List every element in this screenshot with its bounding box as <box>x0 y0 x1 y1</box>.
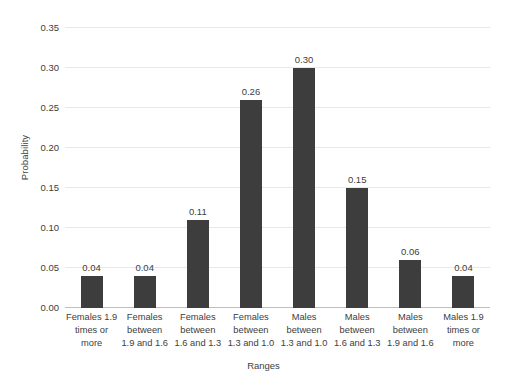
bar[interactable] <box>293 68 315 308</box>
y-axis-tick-label: 0.35 <box>41 22 60 33</box>
category-label-line: 1.3 and 1.0 <box>278 337 331 350</box>
bar-value-label: 0.26 <box>242 86 261 97</box>
category-label-line: 1.9 and 1.6 <box>118 337 171 350</box>
category-label-line: Females <box>224 311 277 324</box>
bar[interactable] <box>81 276 103 308</box>
category-label-line: 1.6 and 1.3 <box>331 337 384 350</box>
category-label-line: Males 1.9 <box>437 311 490 324</box>
category-label-line: 1.9 and 1.6 <box>384 337 437 350</box>
bar[interactable] <box>134 276 156 308</box>
bar-slot: 0.26 <box>224 28 277 308</box>
category-label-line: between <box>278 324 331 337</box>
x-axis-category-label: Females 1.9times ormore <box>65 311 118 350</box>
y-axis-tick-label: 0.25 <box>41 102 60 113</box>
category-label-line: times or <box>65 324 118 337</box>
category-label-line: Females <box>171 311 224 324</box>
x-axis-title: Ranges <box>0 360 527 371</box>
category-label-line: Males <box>331 311 384 324</box>
x-axis-category-label: Femalesbetween1.3 and 1.0 <box>224 311 277 350</box>
bar-slot: 0.15 <box>331 28 384 308</box>
category-label-line: 1.3 and 1.0 <box>224 337 277 350</box>
y-axis-title: Probability <box>19 98 30 218</box>
category-label-line: Males <box>384 311 437 324</box>
bar-value-label: 0.04 <box>454 262 473 273</box>
category-label-line: 1.6 and 1.3 <box>171 337 224 350</box>
x-axis-category-label: Malesbetween1.6 and 1.3 <box>331 311 384 350</box>
bar-value-label: 0.04 <box>82 262 101 273</box>
bar-slot: 0.04 <box>65 28 118 308</box>
bars-layer: 0.040.040.110.260.300.150.060.04 <box>65 28 490 308</box>
bar-slot: 0.06 <box>384 28 437 308</box>
bar-value-label: 0.04 <box>135 262 154 273</box>
x-axis-category-label: Femalesbetween1.6 and 1.3 <box>171 311 224 350</box>
category-label-line: between <box>171 324 224 337</box>
bar[interactable] <box>452 276 474 308</box>
x-axis-category-label: Malesbetween1.9 and 1.6 <box>384 311 437 350</box>
category-label-line: more <box>437 337 490 350</box>
bar-value-label: 0.30 <box>295 54 314 65</box>
bar[interactable] <box>346 188 368 308</box>
bar-value-label: 0.06 <box>401 246 420 257</box>
bar[interactable] <box>240 100 262 308</box>
category-label-line: between <box>224 324 277 337</box>
category-label-line: Females <box>118 311 171 324</box>
category-label-line: times or <box>437 324 490 337</box>
y-axis-tick-label: 0.05 <box>41 262 60 273</box>
category-label-line: Females 1.9 <box>65 311 118 324</box>
category-label-line: Males <box>278 311 331 324</box>
bar-slot: 0.11 <box>171 28 224 308</box>
bar[interactable] <box>399 260 421 308</box>
y-axis-tick-label: 0.10 <box>41 222 60 233</box>
bar-slot: 0.04 <box>437 28 490 308</box>
y-axis-tick-label: 0.15 <box>41 182 60 193</box>
category-label-line: between <box>384 324 437 337</box>
bar-chart: Probability 0.000.050.100.150.200.250.30… <box>0 0 527 381</box>
plot-area: 0.000.050.100.150.200.250.300.35 0.040.0… <box>65 28 490 308</box>
y-axis-tick-label: 0.00 <box>41 302 60 313</box>
y-axis-tick-label: 0.20 <box>41 142 60 153</box>
bar[interactable] <box>187 220 209 308</box>
category-label-line: more <box>65 337 118 350</box>
x-axis-category-labels: Females 1.9times ormoreFemalesbetween1.9… <box>65 311 490 357</box>
bar-slot: 0.04 <box>118 28 171 308</box>
bar-value-label: 0.15 <box>348 174 367 185</box>
bar-slot: 0.30 <box>278 28 331 308</box>
x-axis-category-label: Males 1.9times ormore <box>437 311 490 350</box>
x-axis-category-label: Femalesbetween1.9 and 1.6 <box>118 311 171 350</box>
category-label-line: between <box>331 324 384 337</box>
bar-value-label: 0.11 <box>189 206 207 217</box>
category-label-line: between <box>118 324 171 337</box>
x-axis-category-label: Malesbetween1.3 and 1.0 <box>278 311 331 350</box>
y-axis-tick-label: 0.30 <box>41 62 60 73</box>
